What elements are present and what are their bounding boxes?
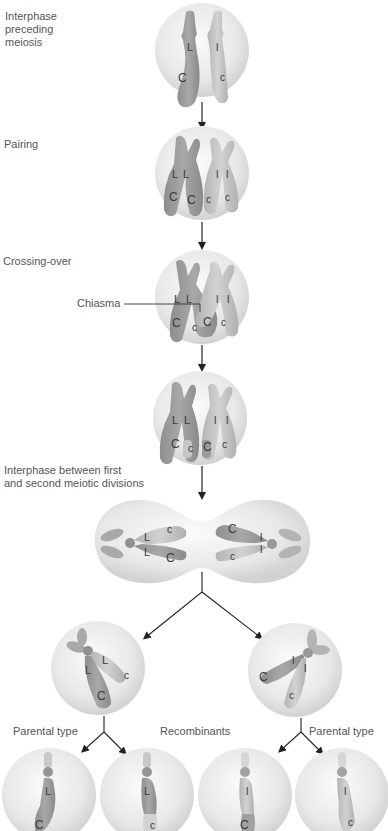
allele-label: c: [150, 820, 155, 831]
allele-label: c: [221, 317, 226, 328]
stage-label-crossing-over: Crossing-over: [3, 255, 71, 268]
gamete-recombinant-lC: l C: [198, 748, 292, 831]
allele-label: c: [167, 524, 172, 535]
allele-label: c: [225, 192, 230, 203]
allele-label: C: [172, 316, 181, 330]
cell-second-division-left: L L c C: [51, 621, 145, 715]
allele-label: l: [292, 654, 294, 666]
allele-label: c: [192, 322, 197, 333]
allele-label: l: [260, 531, 262, 543]
gamete-recombinant-Lc: L c: [100, 748, 194, 831]
allele-label: l: [246, 785, 248, 797]
allele-label: C: [203, 315, 212, 329]
allele-label: l: [216, 293, 218, 305]
cell-crossing-over: L L l l C c C c: [124, 250, 249, 344]
meiosis-diagram: L l C c L L l l C C c c L L l l C c C c: [0, 0, 388, 831]
allele-label: l: [216, 168, 218, 180]
cell-post-crossover: L L l l C c C c: [153, 371, 247, 465]
allele-label: C: [169, 190, 178, 204]
allele-label: C: [35, 818, 44, 831]
stage-label-pairing: Pairing: [4, 138, 38, 151]
outcome-label-parental-left: Parental type: [13, 725, 78, 738]
allele-label: L: [102, 654, 108, 666]
cell-interphase: L l C c: [155, 3, 249, 107]
allele-label: l: [214, 414, 216, 426]
gamete-parental-lc: l c: [295, 748, 388, 831]
cell-second-division-right: l l C c: [248, 623, 342, 717]
allele-label: L: [172, 414, 178, 426]
allele-label: l: [260, 543, 262, 555]
allele-label: L: [45, 785, 51, 797]
allele-label: C: [187, 193, 196, 207]
allele-label: l: [226, 168, 228, 180]
allele-label: l: [304, 662, 306, 674]
gamete-parental-LC: L C: [2, 748, 96, 831]
allele-label: C: [228, 522, 237, 536]
chiasma-label: Chiasma: [77, 297, 120, 310]
outcome-label-recombinants: Recombinants: [160, 725, 230, 738]
allele-label: C: [240, 818, 249, 831]
allele-label: c: [230, 551, 235, 562]
allele-label: L: [183, 168, 189, 180]
allele-label: L: [174, 293, 180, 305]
stage-label-interphase-between: Interphase between first and second meio…: [4, 464, 144, 490]
allele-label: C: [259, 670, 268, 684]
allele-label: L: [144, 546, 150, 558]
allele-label: l: [344, 785, 346, 797]
allele-label: l: [227, 293, 229, 305]
allele-label: c: [124, 670, 129, 681]
allele-label: c: [222, 439, 227, 450]
cell-pairing: L L l l C C c c: [155, 126, 249, 220]
allele-label: C: [166, 551, 175, 565]
allele-label: C: [203, 440, 212, 454]
split-arrow-icon: [84, 716, 124, 752]
cell-first-division: L L c C l l C c: [95, 500, 310, 583]
allele-label: L: [144, 785, 150, 797]
allele-label: c: [348, 817, 353, 828]
allele-label: L: [172, 168, 178, 180]
allele-label: c: [188, 443, 193, 454]
allele-label: c: [289, 690, 294, 701]
allele-label: c: [220, 72, 225, 83]
allele-label: L: [144, 531, 150, 543]
allele-label: l: [226, 414, 228, 426]
allele-label: L: [184, 414, 190, 426]
allele-label: L: [187, 41, 193, 53]
allele-label: C: [97, 689, 106, 703]
allele-label: L: [85, 664, 91, 676]
allele-label: C: [178, 71, 187, 85]
stage-label-interphase: Interphase preceding meiosis: [5, 10, 57, 49]
allele-label: c: [206, 194, 211, 205]
allele-label: L: [186, 293, 192, 305]
allele-label: l: [216, 41, 218, 53]
outcome-label-parental-right: Parental type: [309, 725, 374, 738]
allele-label: C: [171, 437, 180, 451]
